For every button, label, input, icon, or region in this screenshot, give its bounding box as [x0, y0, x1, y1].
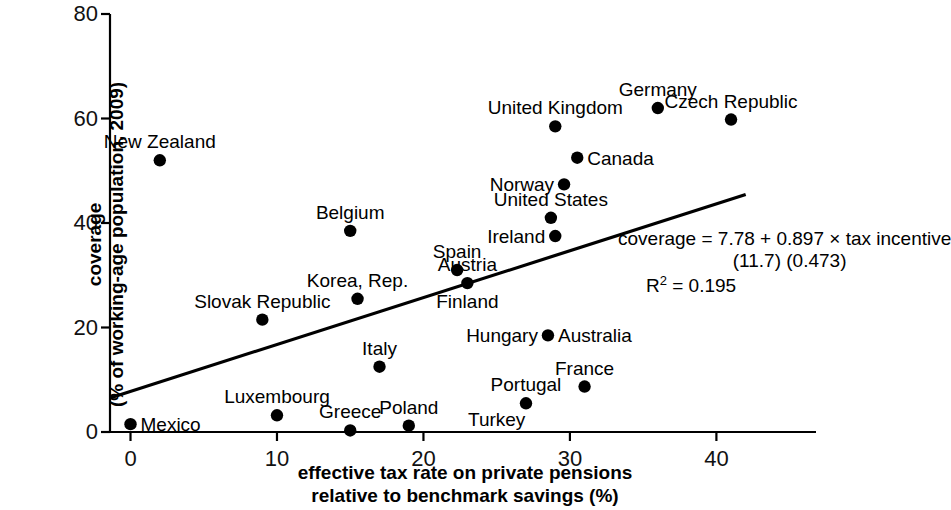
- data-point-label: United Kingdom: [488, 98, 623, 117]
- data-point: [256, 313, 268, 325]
- data-point-label: Finland: [436, 292, 498, 311]
- data-point: [351, 293, 363, 305]
- data-point: [725, 113, 737, 125]
- data-point: [461, 277, 473, 289]
- data-point: [373, 360, 385, 372]
- data-point: [154, 154, 166, 166]
- data-point-label: Czech Republic: [664, 92, 797, 111]
- r-squared-number: = 0.195: [667, 275, 736, 296]
- data-point: [571, 151, 583, 163]
- x-axis-title: effective tax rate on private pensions r…: [110, 462, 820, 508]
- data-point: [403, 420, 415, 432]
- data-point-label: Slovak Republic: [194, 292, 330, 311]
- data-point-label: United States: [494, 190, 608, 209]
- data-point-label: Turkey: [468, 410, 525, 429]
- data-point-label: Ireland: [487, 227, 545, 246]
- regression-annotation: coverage = 7.78 + 0.897 × tax incentive …: [618, 228, 951, 298]
- data-point: [545, 212, 557, 224]
- chart-axes: [110, 14, 816, 432]
- data-point-label: Austria: [438, 255, 497, 274]
- data-point-label: Luxembourg: [224, 387, 330, 406]
- data-point-label: Mexico: [141, 415, 201, 434]
- data-point-label: Hungary: [466, 326, 538, 345]
- data-point: [549, 230, 561, 242]
- data-point: [344, 424, 356, 436]
- data-point-label: Poland: [379, 398, 438, 417]
- r-squared-value: R2 = 0.195: [618, 273, 951, 298]
- data-point-label: France: [555, 359, 614, 378]
- data-point: [271, 409, 283, 421]
- scatter-chart: 020406080010203040 New ZealandGermanyCze…: [0, 0, 951, 510]
- regression-standard-errors: (11.7) (0.473): [618, 250, 951, 272]
- data-point-label: Greece: [319, 402, 381, 421]
- data-point-label: Portugal: [491, 375, 562, 394]
- y-axis-title: coverage (% of working-age population, 2…: [84, 34, 129, 454]
- data-point: [578, 380, 590, 392]
- data-point-label: Canada: [587, 148, 654, 167]
- data-point: [652, 102, 664, 114]
- data-point-label: Italy: [362, 339, 397, 358]
- data-point-label: Korea, Rep.: [307, 271, 408, 290]
- y-tick-label: 80: [40, 1, 98, 27]
- data-point: [549, 120, 561, 132]
- data-point-label: Belgium: [316, 203, 385, 222]
- data-point: [344, 225, 356, 237]
- r-squared-superscript: 2: [660, 273, 667, 288]
- data-point-label: Australia: [558, 326, 632, 345]
- data-point: [542, 329, 554, 341]
- r-squared-prefix: R: [646, 275, 660, 296]
- regression-equation: coverage = 7.78 + 0.897 × tax incentive: [618, 228, 951, 250]
